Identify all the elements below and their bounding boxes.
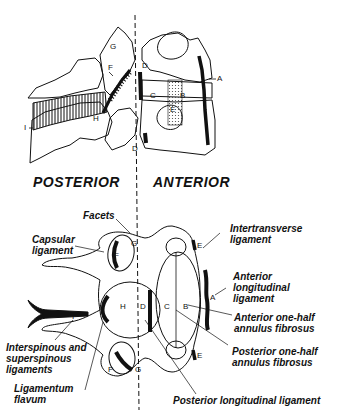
callout-interspinous: Interspinous and superspinous ligaments: [6, 342, 87, 375]
leader-anterior-longitudinal: [215, 288, 226, 295]
ligamentum-flavum-axial: [103, 296, 108, 322]
callout-anterior-annulus: Anterior one-half annulus fibrosus: [234, 312, 315, 334]
leader-ligamentum-flavum: [85, 322, 103, 390]
callout-posterior-annulus: Posterior one-half annulus fibrosus: [232, 346, 318, 368]
lateral-view: [28, 27, 215, 163]
label-e-top-axial: E: [197, 242, 202, 250]
anterior-longitudinal-ligament-axial: [205, 270, 208, 330]
label-c-lateral: C: [150, 92, 156, 100]
callout-anterior-longitudinal-ligament: Anterior longitudinal ligament: [233, 271, 290, 304]
label-d-top-lateral: D: [142, 62, 148, 70]
callout-capsular-ligament: Capsular ligament: [32, 234, 75, 256]
label-e-bottom-axial: E: [197, 352, 202, 360]
label-c-axial: C: [164, 303, 170, 311]
heading-anterior: ANTERIOR: [153, 174, 230, 190]
posterior-longitudinal-ligament-lower: [145, 133, 146, 143]
heading-posterior: POSTERIOR: [33, 174, 120, 190]
vertebral-body: [156, 252, 200, 348]
label-f-top-axial: F: [114, 252, 119, 260]
intertransverse-ligament-top: [193, 240, 195, 250]
leader-anterior-annulus: [188, 305, 232, 315]
capsular-ligament-bottom: [116, 352, 132, 370]
callout-posterior-longitudinal-ligament: Posterior longitudinal ligament: [173, 395, 320, 406]
callout-ligamentum-flavum: Ligamentum flavum: [14, 383, 73, 405]
label-a-lateral: A: [217, 75, 222, 83]
label-f-lateral: F: [108, 64, 113, 72]
spinous-process-upper: [28, 58, 103, 98]
label-i-lateral: I: [24, 124, 26, 132]
label-h-lateral: H: [93, 115, 99, 123]
label-d-bottom-lateral: D: [132, 145, 138, 153]
callout-intertransverse-ligament: Intertransverse ligament: [230, 223, 302, 245]
label-i-axial: I: [72, 313, 74, 321]
label-b-lateral: B: [180, 92, 185, 100]
callout-facets: Facets: [83, 210, 115, 221]
leader-facets: [116, 219, 130, 233]
posterior-longitudinal-ligament-lateral: [140, 72, 141, 100]
label-b-axial: B: [183, 303, 188, 311]
posterior-annulus-stipple: [168, 80, 182, 125]
leader-intertransverse: [203, 233, 220, 248]
leader-posterior-longitudinal: [145, 320, 196, 394]
label-a-axial: A: [210, 294, 215, 302]
label-e-lateral: E: [170, 106, 175, 114]
leader-posterior-annulus: [176, 310, 228, 345]
intertransverse-ligament-bottom: [193, 350, 195, 360]
label-g-bottom-axial: G: [135, 366, 141, 374]
label-g-lateral: G: [110, 43, 116, 51]
label-d-axial: D: [140, 303, 146, 311]
label-f-bottom-axial: F: [108, 366, 113, 374]
label-h-axial: H: [120, 303, 126, 311]
label-g-top-axial: G: [131, 240, 137, 248]
